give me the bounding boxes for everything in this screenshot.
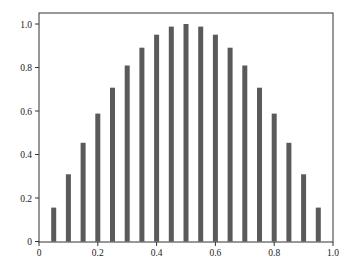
bar xyxy=(213,35,218,242)
bar xyxy=(110,88,115,242)
bar-chart: 00.20.40.60.81.0 00.20.40.60.81.0 xyxy=(0,0,353,273)
bar xyxy=(169,27,174,242)
bar xyxy=(301,174,306,241)
y-tick-label: 0.4 xyxy=(20,150,32,160)
x-tick-label: 0 xyxy=(37,248,42,258)
bar xyxy=(242,66,247,242)
x-tick-label: 0.6 xyxy=(209,248,221,258)
bar xyxy=(125,66,130,242)
bars-group xyxy=(51,24,321,242)
bar xyxy=(257,88,262,242)
bar xyxy=(316,208,321,242)
bar xyxy=(139,48,144,242)
bar xyxy=(81,143,86,242)
y-tick-label: 0.2 xyxy=(20,194,32,204)
x-tick-label: 0.2 xyxy=(92,248,104,258)
bar xyxy=(198,27,203,242)
y-tick-label: 0.6 xyxy=(20,107,32,117)
x-axis: 00.20.40.60.81.0 xyxy=(37,242,340,258)
y-tick-label: 1.0 xyxy=(20,20,32,30)
x-tick-label: 1.0 xyxy=(327,248,339,258)
y-tick-label: 0.8 xyxy=(20,63,32,73)
bar xyxy=(272,114,277,242)
bar xyxy=(51,208,56,242)
bar xyxy=(95,114,100,242)
x-tick-label: 0.8 xyxy=(268,248,280,258)
bar xyxy=(66,174,71,241)
bar xyxy=(228,48,233,242)
y-axis: 00.20.40.60.81.0 xyxy=(20,20,39,248)
x-tick-label: 0.4 xyxy=(151,248,163,258)
bar xyxy=(184,24,189,242)
y-tick-label: 0 xyxy=(27,237,32,247)
bar xyxy=(154,35,159,242)
bar xyxy=(286,143,291,242)
